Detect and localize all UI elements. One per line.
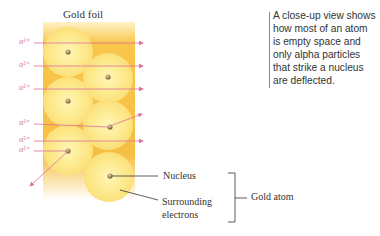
nucleus-label: Nucleus	[163, 170, 196, 181]
caption-line: are deflected.	[273, 74, 380, 87]
caption-line: A close-up view shows	[273, 9, 380, 22]
caption-line: that strike a nucleus	[273, 61, 380, 74]
gold-atom-bracket	[228, 173, 235, 222]
alpha-label: α²⁺	[19, 60, 30, 69]
alpha-label: α²⁺	[19, 118, 30, 127]
caption-line: is empty space and	[273, 35, 380, 48]
electrons-label-line1: Surrounding	[162, 196, 212, 207]
alpha-label: α²⁺	[19, 135, 30, 144]
electrons-label-line2: electrons	[162, 209, 198, 220]
alpha-label: α²⁺	[19, 145, 30, 154]
caption-line: only alpha particles	[273, 48, 380, 61]
diagram-title: Gold foil	[63, 8, 103, 20]
caption-text: A close-up view shows how most of an ato…	[273, 9, 380, 87]
caption-line: how most of an atom	[273, 22, 380, 35]
caption-divider	[269, 12, 270, 88]
alpha-label: α²⁺	[19, 37, 30, 46]
gold-atom-label: Gold atom	[251, 191, 294, 202]
alpha-label: α²⁺	[19, 83, 30, 92]
